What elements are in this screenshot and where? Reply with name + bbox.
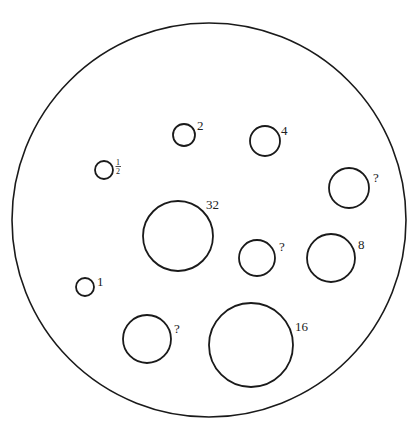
- circle-unknown-bottom: [123, 315, 171, 363]
- label-unknown-bottom: ?: [174, 321, 180, 336]
- label-eight: 8: [358, 237, 365, 252]
- circle-size-diagram: 1224?32?81?16: [0, 0, 417, 431]
- circle-sixteen: [209, 303, 293, 387]
- circle-unknown-top-right: [329, 168, 369, 208]
- circle-unknown-middle: [239, 240, 275, 276]
- label-thirty-two: 32: [206, 197, 219, 212]
- circle-thirty-two: [143, 201, 213, 271]
- circle-four: [250, 126, 280, 156]
- circle-one: [76, 278, 94, 296]
- label-unknown-middle: ?: [279, 239, 285, 254]
- label-four: 4: [281, 123, 288, 138]
- circle-two: [173, 124, 195, 146]
- label-half-numerator: 1: [116, 158, 120, 167]
- circle-half: [95, 161, 113, 179]
- label-one: 1: [97, 274, 104, 289]
- label-half-denominator: 2: [116, 167, 120, 176]
- label-unknown-top-right: ?: [373, 170, 379, 185]
- label-two: 2: [197, 118, 204, 133]
- diagram-canvas: 1224?32?81?16: [0, 0, 417, 431]
- circle-eight: [307, 234, 355, 282]
- label-sixteen: 16: [295, 319, 309, 334]
